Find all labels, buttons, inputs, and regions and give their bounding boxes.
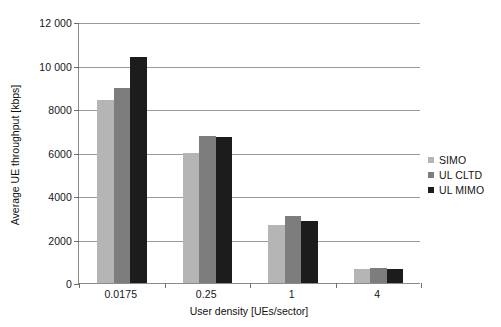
legend-swatch-icon [428,187,434,193]
y-axis-tick [74,23,79,24]
y-axis-tick-label: 8000 [48,104,72,116]
plot-area [78,23,420,284]
bar-ul-mimo[interactable] [216,137,233,283]
y-axis-tick [74,197,79,198]
x-axis-tick-label: 0.0175 [104,288,137,300]
bar-simo[interactable] [97,100,114,283]
y-axis-tick-label: 4000 [48,191,72,203]
legend-item[interactable]: SIMO [428,152,496,167]
x-axis-tick [421,283,422,288]
bar-simo[interactable] [354,269,371,283]
y-axis-tick [74,67,79,68]
y-axis-tick [74,241,79,242]
legend-label: UL MIMO [439,184,484,196]
chart-legend: SIMOUL CLTDUL MIMO [428,152,496,197]
bar-simo[interactable] [268,225,285,283]
legend-item[interactable]: UL MIMO [428,182,496,197]
y-axis-tick-label: 12 000 [39,17,72,29]
y-axis-tick-label: 10 000 [39,61,72,73]
legend-label: SIMO [439,154,466,166]
x-axis-tick [165,283,166,288]
bar-ul-mimo[interactable] [387,269,404,283]
legend-swatch-icon [428,172,434,178]
y-axis-tick-label: 0 [66,278,72,290]
x-axis-tick [79,283,80,288]
y-axis-tick-labels: 0200040006000800010 00012 000 [26,23,72,284]
legend-label: UL CLTD [439,169,482,181]
x-axis-tick-label: 1 [289,288,295,300]
bar-ul-mimo[interactable] [301,221,318,283]
bar-simo[interactable] [183,153,200,284]
y-axis-title: Average UE throughput [kbps] [7,60,23,250]
bar-ul-cltd[interactable] [370,268,387,283]
bar-group [354,23,404,283]
x-axis-tick [336,283,337,288]
bar-group [97,23,147,283]
bar-ul-mimo[interactable] [130,57,147,283]
legend-item[interactable]: UL CLTD [428,167,496,182]
x-axis-tick-label: 4 [374,288,380,300]
legend-swatch-icon [428,157,434,163]
x-axis-title: User density [UEs/sector] [78,305,420,317]
bar-group [268,23,318,283]
bar-group [183,23,233,283]
x-axis-tick [250,283,251,288]
x-axis-tick-label: 0.25 [196,288,217,300]
y-axis-title-text: Average UE throughput [kbps] [9,85,21,225]
y-axis-tick [74,110,79,111]
chart-screenshot: Average UE throughput [kbps] 02000400060… [0,0,501,327]
y-axis-tick-label: 2000 [48,235,72,247]
y-axis-tick-label: 6000 [48,148,72,160]
bar-ul-cltd[interactable] [199,136,216,283]
y-axis-tick [74,154,79,155]
bar-ul-cltd[interactable] [285,216,302,283]
bar-ul-cltd[interactable] [114,88,131,283]
